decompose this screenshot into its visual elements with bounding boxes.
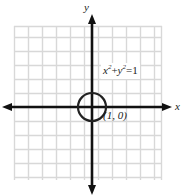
axes <box>2 14 172 195</box>
x-axis-arrow-right <box>162 103 172 111</box>
y-axis-label: y <box>84 2 89 13</box>
coordinate-plane-figure: x2+y2=1 (1, 0) y x <box>0 0 185 196</box>
x-axis-label: x <box>175 101 180 112</box>
y-axis-arrow-down <box>88 185 96 195</box>
graph-canvas <box>0 0 185 196</box>
equation-label: x2+y2=1 <box>101 63 140 79</box>
x-axis-arrow-left <box>2 103 12 111</box>
point-label: (1, 0) <box>103 110 127 121</box>
equation-right-side: 1 <box>132 64 138 76</box>
grid-lines <box>14 26 162 180</box>
y-axis-arrow-up <box>88 14 96 24</box>
